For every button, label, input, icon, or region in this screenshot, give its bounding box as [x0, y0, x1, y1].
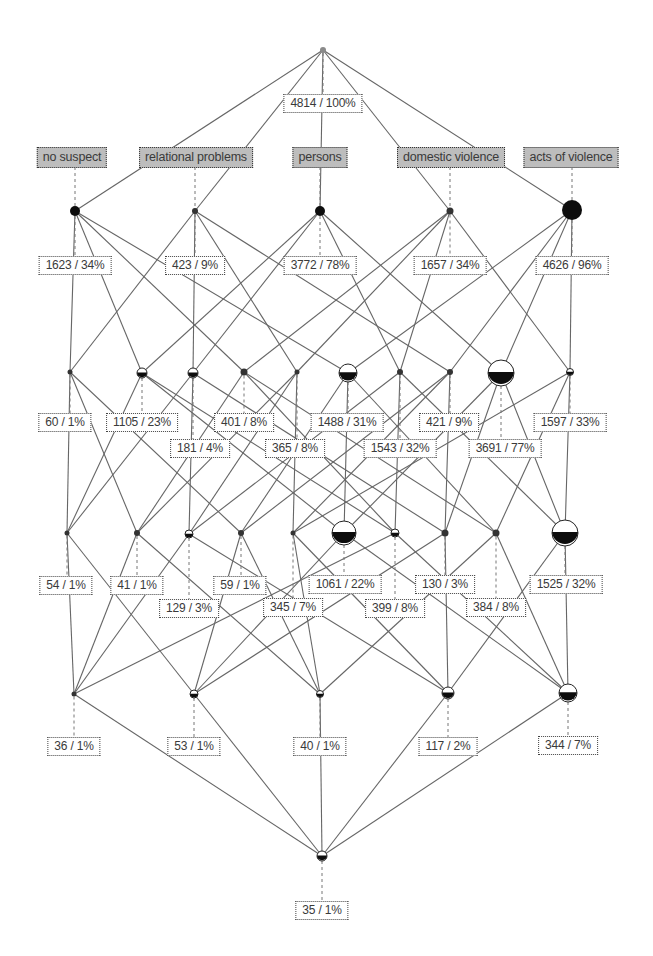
- count-label-be: 421 / 9%: [419, 413, 479, 432]
- count-label-ace: 1061 / 22%: [309, 575, 382, 594]
- count-label-ac: 1105 / 23%: [106, 413, 178, 432]
- count-label-de: 1597 / 33%: [534, 413, 607, 432]
- count-label-bcde: 117 / 2%: [419, 737, 478, 756]
- count-label-c: 3772 / 78%: [284, 256, 357, 275]
- attribute-label-persons: persons: [292, 147, 347, 168]
- count-label-bcd: 129 / 3%: [159, 599, 219, 618]
- count-label-abde: 40 / 1%: [293, 737, 346, 756]
- count-label-b: 423 / 9%: [165, 256, 225, 275]
- count-label-abcd: 36 / 1%: [47, 737, 100, 756]
- count-label-acde: 344 / 7%: [538, 736, 598, 755]
- count-label-ade: 384 / 8%: [466, 598, 526, 617]
- count-label-a: 1623 / 34%: [39, 256, 112, 275]
- count-label-acd: 399 / 8%: [365, 599, 425, 618]
- count-label-ce: 3691 / 77%: [469, 439, 542, 458]
- count-label-bottom: 35 / 1%: [295, 901, 348, 920]
- count-label-bd: 365 / 8%: [265, 439, 325, 458]
- count-label-ad: 401 / 8%: [214, 413, 274, 432]
- attribute-label-no-suspect: no suspect: [37, 147, 107, 168]
- count-label-bde: 345 / 7%: [263, 598, 323, 617]
- count-label-e: 4626 / 96%: [536, 256, 609, 275]
- attribute-label-domestic-violence: domestic violence: [397, 147, 505, 168]
- count-label-bce: 130 / 3%: [415, 575, 475, 594]
- attribute-label-relational-problems: relational problems: [139, 147, 253, 168]
- count-label-abc: 54 / 1%: [39, 576, 92, 595]
- attribute-label-acts-of-violence: acts of violence: [524, 147, 619, 168]
- count-label-bc: 181 / 4%: [170, 439, 230, 458]
- count-label-abce: 53 / 1%: [167, 737, 220, 756]
- count-label-ab: 60 / 1%: [38, 413, 91, 432]
- count-label-cde: 1525 / 32%: [530, 575, 603, 594]
- count-label-ae: 1488 / 31%: [311, 413, 384, 432]
- count-label-abe: 59 / 1%: [213, 576, 266, 595]
- count-label-abd: 41 / 1%: [110, 576, 163, 595]
- label-layer: no suspectrelational problemspersonsdome…: [0, 0, 653, 956]
- count-label-cd: 1543 / 32%: [364, 439, 437, 458]
- count-label-top: 4814 / 100%: [283, 94, 362, 113]
- count-label-d: 1657 / 34%: [414, 256, 487, 275]
